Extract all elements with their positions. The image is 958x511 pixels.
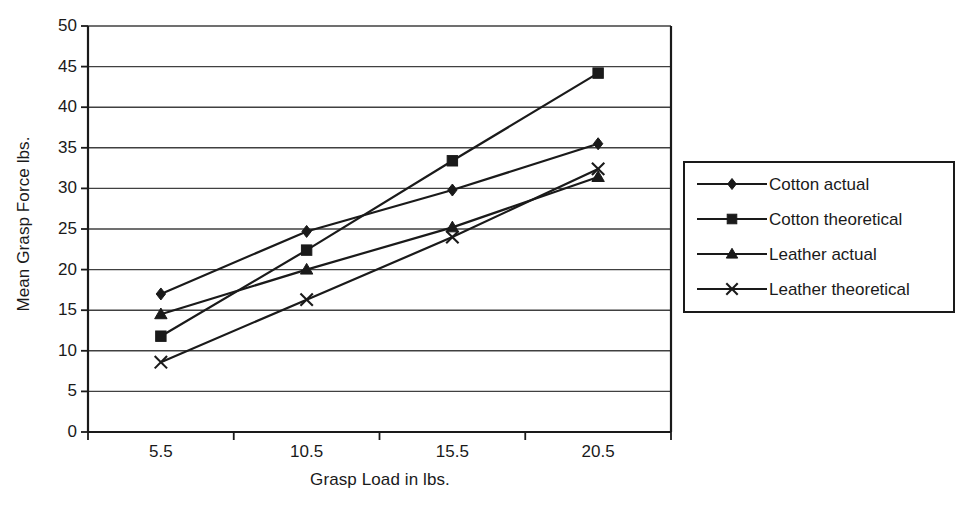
legend-label: Cotton theoretical <box>769 211 902 228</box>
x-marker <box>300 293 312 305</box>
series-cotton-theoretical <box>156 68 604 341</box>
legend-item[interactable]: Leather theoretical <box>685 272 953 306</box>
diamond-marker <box>448 184 457 196</box>
x-marker <box>695 279 769 299</box>
chart-figure: Mean Grasp Force lbs. Grasp Load in lbs.… <box>0 0 958 511</box>
square-marker <box>695 209 769 229</box>
series-leather-actual <box>155 171 605 319</box>
diamond-marker <box>302 225 311 237</box>
series-cotton-actual <box>156 138 603 300</box>
diamond-marker <box>695 174 769 194</box>
legend-label: Leather actual <box>769 246 877 263</box>
square-marker <box>447 156 457 166</box>
x-axis-ticks <box>88 432 671 440</box>
legend-marker-sample <box>695 174 769 194</box>
square-marker <box>301 245 311 255</box>
series-line <box>161 73 598 336</box>
legend-marker-sample <box>695 209 769 229</box>
legend-label: Leather theoretical <box>769 281 910 298</box>
legend-label: Cotton actual <box>769 176 869 193</box>
gridlines <box>88 26 671 432</box>
square-marker <box>727 214 737 224</box>
triangle-marker <box>695 244 769 264</box>
series-leather-theoretical <box>155 163 605 369</box>
chart-legend: Cotton actualCotton theoreticalLeather a… <box>683 161 955 313</box>
square-marker <box>593 68 603 78</box>
diamond-marker <box>156 288 165 300</box>
series-line <box>161 177 598 314</box>
legend-marker-sample <box>695 244 769 264</box>
legend-marker-sample <box>695 279 769 299</box>
series-line <box>161 144 598 294</box>
diamond-marker <box>728 178 737 189</box>
data-series <box>155 68 605 368</box>
square-marker <box>156 331 166 341</box>
x-marker <box>155 356 167 368</box>
legend-item[interactable]: Leather actual <box>685 237 953 271</box>
x-marker <box>446 231 458 243</box>
legend-item[interactable]: Cotton actual <box>685 167 953 201</box>
legend-item[interactable]: Cotton theoretical <box>685 202 953 236</box>
